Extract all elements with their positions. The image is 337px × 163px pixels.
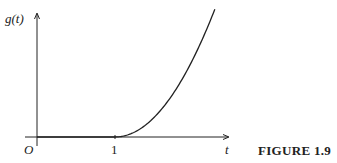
origin-label: O <box>24 142 34 157</box>
x-axis-label: t <box>225 142 229 157</box>
g-curve <box>37 9 215 137</box>
x-tick-label-1: 1 <box>111 142 118 157</box>
figure-plot: g(t) t O 1 <box>0 0 337 163</box>
y-axis-label: g(t) <box>5 11 24 26</box>
figure-caption: FIGURE 1.9 <box>258 143 331 159</box>
